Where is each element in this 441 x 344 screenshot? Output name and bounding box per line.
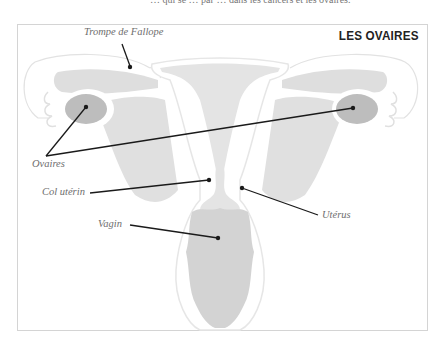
ovary-right <box>336 94 378 124</box>
reproductive-system-diagram <box>0 0 441 344</box>
label-ovaries: Ovaires <box>32 158 65 169</box>
label-uterus: Utérus <box>322 209 351 220</box>
label-cervix: Col utérin <box>42 186 85 197</box>
fallopian-tube-right <box>282 69 387 93</box>
fimbriae-right <box>385 92 397 126</box>
fimbriae-left <box>44 92 56 126</box>
label-vagina: Vagin <box>98 218 122 229</box>
label-fallopian-tube: Trompe de Fallope <box>84 26 164 37</box>
diagram-title: LES OVAIRES <box>339 28 419 43</box>
leader-fallopian <box>122 44 130 66</box>
fallopian-tube-left <box>54 69 158 93</box>
